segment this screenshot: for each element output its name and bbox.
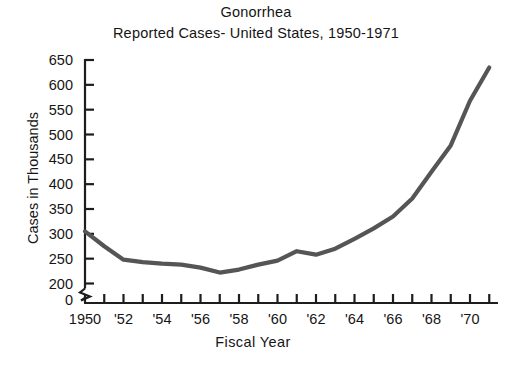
x-tick-label: '64	[345, 311, 364, 327]
x-tick-label: '70	[461, 311, 480, 327]
y-tick-label: 200	[49, 276, 73, 292]
x-tick-label: '52	[114, 311, 133, 327]
x-tick-label: '62	[307, 311, 326, 327]
y-tick-label: 0	[65, 292, 73, 308]
x-tick-label: '54	[153, 311, 172, 327]
y-tick-label: 650	[49, 52, 73, 68]
y-axis: 0200250300350400450500550600650	[49, 52, 94, 308]
y-tick-label: 250	[49, 251, 73, 267]
y-tick-label: 400	[49, 176, 73, 192]
x-tick-label: '58	[230, 311, 249, 327]
x-axis: 1950'52'54'56'58'60'62'64'66'68'70	[69, 294, 498, 327]
x-tick-label: 1950	[69, 311, 101, 327]
x-tick-label: '66	[384, 311, 403, 327]
y-tick-label: 300	[49, 226, 73, 242]
x-tick-label: '68	[422, 311, 441, 327]
y-tick-label: 350	[49, 201, 73, 217]
y-tick-label: 600	[49, 77, 73, 93]
y-tick-label: 500	[49, 127, 73, 143]
x-tick-label: '60	[268, 311, 287, 327]
x-tick-label: '56	[191, 311, 210, 327]
data-line	[85, 67, 489, 272]
data-series-line	[85, 67, 489, 272]
plot-area: 0200250300350400450500550600650 1950'52'…	[0, 0, 506, 367]
y-tick-label: 450	[49, 151, 73, 167]
y-tick-label: 550	[49, 102, 73, 118]
chart-figure: Gonorrhea Reported Cases- United States,…	[0, 0, 506, 367]
